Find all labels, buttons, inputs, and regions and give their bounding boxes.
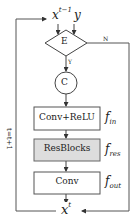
no-label: N: [103, 35, 108, 42]
resblocks-label: ResBlocks: [34, 143, 100, 153]
concat-label: C: [61, 77, 68, 87]
f-out-label: fout: [105, 174, 121, 190]
output-x-label: xt: [60, 202, 72, 217]
input-x-label: xt−1: [52, 8, 72, 22]
decision-label: E: [61, 36, 68, 46]
f-res-label: fres: [105, 142, 121, 158]
loop-label: t=t+1: [5, 128, 13, 150]
conv-label: Conv: [34, 176, 100, 186]
yes-label: Y: [68, 58, 72, 65]
conv-relu-label: Conv+ReLU: [34, 112, 100, 122]
f-in-label: fin: [105, 110, 116, 126]
input-y-label: y: [74, 8, 81, 22]
